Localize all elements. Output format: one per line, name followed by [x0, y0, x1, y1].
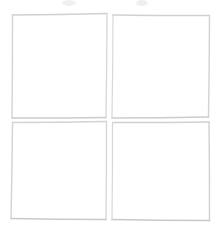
- top-right-square-top-edge: [113, 15, 210, 16]
- grid-of-squares-figure: [0, 0, 221, 230]
- bottom-left-square-right-edge: [106, 122, 107, 220]
- top-left-square-left-edge: [12, 15, 13, 118]
- top-smudge-left-icon: [62, 0, 76, 6]
- bottom-left-square-bottom-edge: [11, 219, 106, 220]
- bottom-right-square-left-edge: [112, 123, 113, 220]
- bottom-right-square-bottom-edge: [112, 220, 210, 221]
- top-left-square-bottom-edge: [12, 118, 106, 119]
- paper-background: [0, 0, 221, 230]
- drawing-canvas: Hand-drawn 2x2 grid of four squares Four…: [0, 0, 221, 230]
- bottom-right-square-top-edge: [113, 122, 210, 123]
- top-smudge-right-icon: [136, 0, 148, 6]
- bottom-right-square-right-edge: [209, 122, 210, 221]
